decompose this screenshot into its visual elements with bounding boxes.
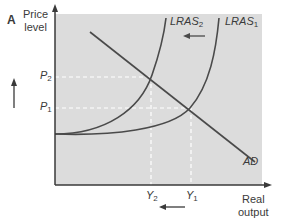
y-axis-label-line1: Price xyxy=(23,8,48,21)
x-axis-label: Real output xyxy=(238,193,269,218)
lras1-label: LRAS1 xyxy=(225,16,258,29)
output-fall-arrow-left-icon xyxy=(159,204,166,210)
y1-label: Y1 xyxy=(186,190,198,203)
x-axis-arrow-icon xyxy=(264,182,272,188)
x-axis-label-line2: output xyxy=(238,206,269,218)
lras2-label: LRAS2 xyxy=(170,16,203,29)
y-axis-arrow-icon xyxy=(52,4,58,12)
plot-area xyxy=(55,14,262,185)
p1-label: P1 xyxy=(40,101,52,114)
x-axis-label-line1: Real xyxy=(238,193,269,206)
panel-label: A xyxy=(7,13,16,27)
p2-label: P2 xyxy=(40,70,52,83)
ad-label: AD xyxy=(243,156,258,167)
y-axis-label: Price level xyxy=(23,8,48,34)
y-axis-label-line2: level xyxy=(23,21,48,34)
y2-label: Y2 xyxy=(146,190,158,203)
price-rise-arrow-up-icon xyxy=(11,78,17,86)
